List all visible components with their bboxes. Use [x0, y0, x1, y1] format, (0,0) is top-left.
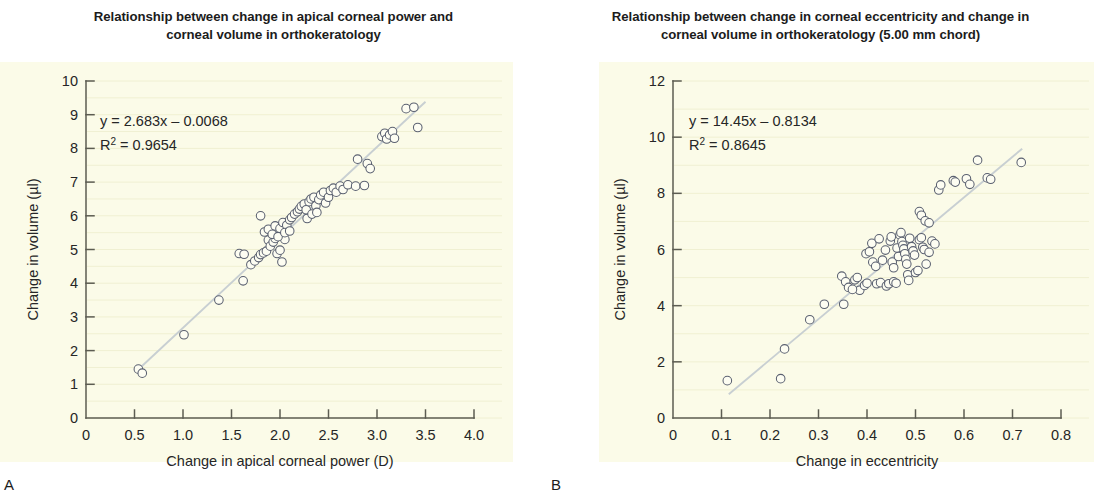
x-tick-label: 1.0: [173, 427, 193, 443]
y-tick-label: 8: [657, 185, 665, 201]
y-tick-label: 6: [657, 242, 665, 258]
data-point: [878, 256, 887, 265]
data-point: [360, 181, 369, 190]
x-tick-label: 2.5: [318, 427, 338, 443]
data-point: [848, 285, 857, 294]
r-squared-label: R2 = 0.9654: [100, 136, 177, 153]
data-point: [180, 330, 189, 339]
y-tick-label: 3: [70, 309, 78, 325]
data-point: [240, 250, 249, 259]
x-tick-label: 0.5: [124, 427, 144, 443]
panel-a-letter: A: [4, 476, 14, 493]
y-tick-label: 2: [70, 343, 78, 359]
data-point: [839, 300, 848, 309]
data-point: [951, 178, 960, 187]
data-point: [897, 228, 906, 237]
data-point: [936, 181, 945, 190]
data-point: [723, 376, 732, 385]
y-tick-label: 4: [657, 298, 665, 314]
data-point: [863, 279, 872, 288]
data-point: [805, 315, 814, 324]
y-axis-title: Change in volume (µl): [612, 178, 628, 320]
data-point: [410, 103, 419, 112]
x-tick-label: 0.2: [760, 427, 780, 443]
x-tick-label: 2.0: [270, 427, 290, 443]
data-point: [1017, 158, 1026, 167]
y-tick-label: 5: [70, 242, 78, 258]
data-point: [285, 227, 294, 236]
data-point: [413, 123, 422, 132]
x-tick-label: 1.5: [221, 427, 241, 443]
panel-a: Relationship between change in apical co…: [0, 0, 547, 501]
x-tick-label: 0: [82, 427, 90, 443]
x-tick-label: 0.1: [711, 427, 731, 443]
panel-a-plot: 00.51.01.52.02.53.03.54.0012345678910Cha…: [0, 0, 547, 501]
y-axis-title: Change in volume (µl): [25, 178, 41, 320]
data-point: [925, 248, 934, 257]
y-tick-label: 9: [70, 107, 78, 123]
trend-line: [729, 149, 1022, 395]
data-point: [366, 164, 375, 173]
x-tick-label: 0.7: [1002, 427, 1022, 443]
y-tick-label: 8: [70, 140, 78, 156]
x-tick-label: 0.3: [808, 427, 828, 443]
panel-b-plot: 00.10.20.30.40.50.60.70.8024681012Change…: [547, 0, 1094, 501]
data-point: [887, 233, 896, 242]
data-point: [390, 134, 399, 143]
data-point: [353, 155, 362, 164]
data-point: [344, 180, 353, 189]
data-point: [910, 251, 919, 260]
data-point: [892, 279, 901, 288]
data-point: [351, 182, 360, 191]
x-tick-label: 0.5: [905, 427, 925, 443]
y-tick-label: 10: [649, 129, 665, 145]
data-point: [865, 247, 874, 256]
data-point: [917, 233, 926, 242]
x-tick-label: 0.4: [857, 427, 877, 443]
data-point: [875, 235, 884, 244]
data-point: [820, 300, 829, 309]
x-tick-label: 3.5: [415, 427, 435, 443]
data-point: [313, 208, 322, 217]
x-tick-label: 0.6: [954, 427, 974, 443]
regression-equation: y = 2.683x – 0.0068: [100, 113, 228, 129]
data-point: [889, 263, 898, 272]
data-point: [986, 175, 995, 184]
data-point: [776, 374, 785, 383]
figure-container: Relationship between change in apical co…: [0, 0, 1094, 501]
x-tick-label: 0: [669, 427, 677, 443]
data-point: [256, 212, 265, 221]
y-tick-label: 1: [70, 376, 78, 392]
data-point: [922, 260, 931, 269]
x-tick-label: 3.0: [367, 427, 387, 443]
data-point: [780, 345, 789, 354]
panel-b-letter: B: [551, 476, 561, 493]
data-point: [925, 219, 934, 228]
data-points: [723, 156, 1026, 385]
data-point: [402, 104, 411, 113]
data-point: [973, 156, 982, 165]
data-point: [215, 296, 224, 305]
gridlines: [87, 81, 502, 418]
y-tick-label: 2: [657, 354, 665, 370]
data-point: [871, 262, 880, 271]
data-point: [902, 260, 911, 269]
data-point: [966, 180, 975, 189]
data-point: [278, 258, 287, 267]
data-point: [931, 240, 940, 249]
x-tick-label: 0.8: [1051, 427, 1071, 443]
data-point: [881, 246, 890, 255]
data-point: [914, 266, 923, 275]
r-squared-label: R2 = 0.8645: [689, 136, 766, 153]
y-tick-label: 12: [649, 73, 665, 89]
x-axis-title: Change in apical corneal power (D): [166, 453, 393, 469]
y-tick-label: 4: [70, 275, 78, 291]
data-point: [853, 273, 862, 282]
y-tick-label: 0: [657, 410, 665, 426]
data-point: [239, 277, 248, 286]
x-axis-title: Change in eccentricity: [796, 453, 939, 469]
panel-b: Relationship between change in corneal e…: [547, 0, 1094, 501]
y-tick-label: 6: [70, 208, 78, 224]
data-point: [138, 369, 147, 378]
data-point: [276, 246, 285, 255]
